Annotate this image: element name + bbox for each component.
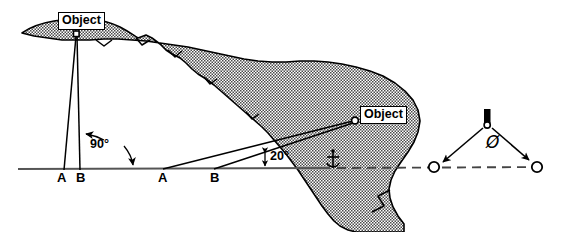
- land-region: [22, 19, 420, 232]
- observer-marker-icon: [484, 109, 491, 128]
- object-point-icon-right: [352, 117, 359, 124]
- angle-label-phi: Ø: [486, 134, 499, 151]
- angle-label-20: 20°: [270, 150, 289, 163]
- left-sight-lines: [64, 36, 80, 170]
- station-label-a2: A: [158, 171, 167, 184]
- target-point-icon-offshore: [532, 162, 542, 172]
- station-label-a1: A: [57, 171, 66, 184]
- angle-label-90: 90°: [90, 138, 109, 151]
- object-point-icon-left: [74, 31, 80, 37]
- baseline-dashed: [337, 167, 547, 168]
- object-label-left: Object: [58, 12, 105, 30]
- station-label-b1: B: [76, 171, 85, 184]
- diagram-canvas: Object Object A B A B 90° 20° Ø: [0, 0, 561, 232]
- target-point-icon-shore: [429, 162, 439, 172]
- station-label-b2: B: [210, 171, 219, 184]
- object-label-right: Object: [360, 106, 407, 124]
- survey-diagram-svg: [0, 0, 561, 232]
